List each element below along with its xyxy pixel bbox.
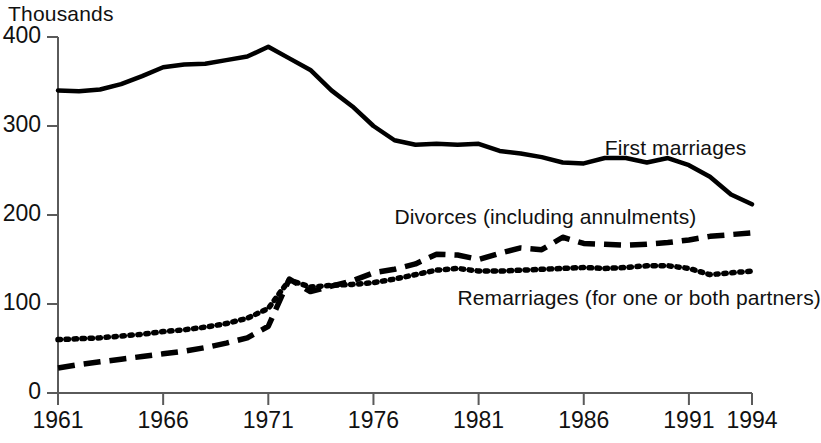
y-axis-tick-label: 400 [0,22,41,49]
x-axis-tick-label: 1976 [333,407,413,434]
series-annotation-label: Remarriages (for one or both partners) [458,286,821,310]
x-axis-tick-label: 1994 [712,407,792,434]
y-axis-tick-label: 200 [0,200,41,227]
x-axis-tick-label: 1981 [439,407,519,434]
x-axis-tick-label: 1961 [18,407,98,434]
y-axis-tick-label: 300 [0,111,41,138]
x-axis-tick-label: 1966 [123,407,203,434]
series-line-1 [58,47,752,205]
series-annotation-label: Divorces (including annulments) [394,205,696,229]
series-annotation-label: First marriages [605,136,747,160]
y-axis-tick-label: 100 [0,289,41,316]
x-axis-tick-label: 1971 [228,407,308,434]
x-axis-tick-label: 1986 [544,407,624,434]
y-axis-tick-label: 0 [0,378,41,405]
